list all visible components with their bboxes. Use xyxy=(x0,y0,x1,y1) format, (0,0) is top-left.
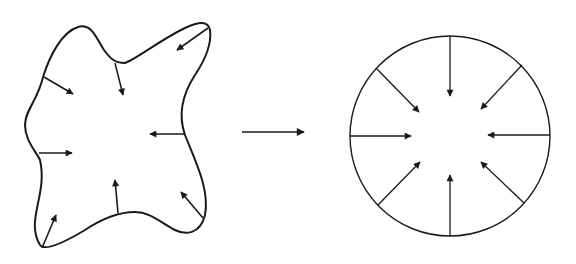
irregular-shape xyxy=(25,23,210,248)
blob-arrow-top-notch xyxy=(115,63,123,95)
diagram-canvas: Irregular closed shape with inward-point… xyxy=(0,0,576,264)
blob-arrow-bottom-left xyxy=(42,215,56,248)
blob-arrow-bottom-right xyxy=(181,192,203,218)
blob-arrow-bottom-notch xyxy=(115,180,118,213)
blob-arrow-upper-left xyxy=(44,77,73,94)
circle-shape xyxy=(350,36,550,236)
circle-arrow-bottom-left xyxy=(378,162,420,205)
circle-arrow-top-right xyxy=(481,65,522,109)
blob-outline xyxy=(25,23,210,247)
circle-arrow-bottom-right xyxy=(481,162,524,203)
circle-arrow-top-left xyxy=(376,68,419,112)
blob-arrow-top-right xyxy=(177,28,208,50)
